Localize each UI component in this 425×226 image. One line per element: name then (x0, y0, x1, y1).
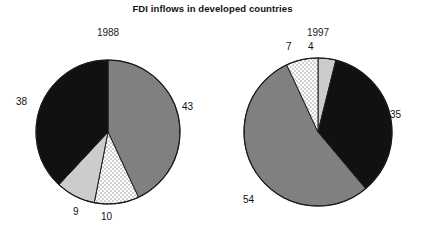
pie-chart-canvas (0, 0, 425, 226)
chart-title: FDI inflows in developed countries (0, 3, 425, 14)
pie-chart-figure: FDI inflows in developed countries 1988 … (0, 0, 425, 226)
slice-label-1997-7: 7 (286, 41, 292, 52)
slice-label-1988-43: 43 (182, 101, 193, 112)
pie-year-label-1997: 1997 (290, 27, 346, 38)
slice-label-1988-10: 10 (101, 211, 112, 222)
pie-1997 (244, 58, 392, 206)
slice-label-1988-9: 9 (73, 206, 79, 217)
pie-1988 (36, 60, 180, 204)
pie-year-label-1988: 1988 (80, 27, 136, 38)
slice-label-1997-54: 54 (243, 194, 254, 205)
slice-label-1997-35: 35 (390, 109, 401, 120)
slice-label-1997-4: 4 (308, 41, 314, 52)
slice-label-1988-38: 38 (16, 96, 27, 107)
